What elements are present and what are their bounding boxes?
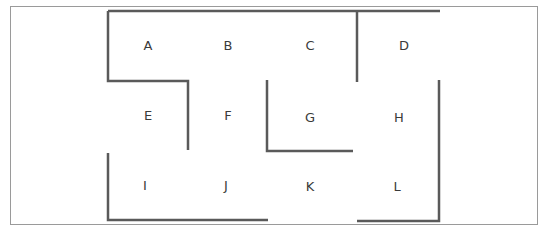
cell-label-f: F — [208, 109, 248, 123]
cell-label-j: J — [206, 179, 246, 193]
cell-label-c: C — [290, 39, 330, 53]
cell-label-k: K — [290, 180, 330, 194]
a-left-e-top-wall — [108, 11, 188, 150]
cell-label-i: I — [125, 179, 165, 193]
cell-label-d: D — [384, 39, 424, 53]
cell-label-b: B — [208, 39, 248, 53]
maze-walls — [0, 0, 545, 233]
cell-label-g: G — [290, 111, 330, 125]
cell-label-h: H — [379, 111, 419, 125]
cell-label-a: A — [128, 39, 168, 53]
h-l-right-bottom-wall — [357, 80, 439, 221]
cell-label-e: E — [128, 109, 168, 123]
cell-label-l: L — [377, 180, 417, 194]
